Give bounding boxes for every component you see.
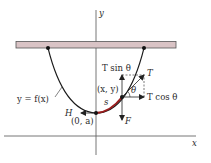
- horizontal-force-label: H: [64, 108, 73, 118]
- tension-vertical-label: T sin θ: [102, 63, 131, 73]
- point-xy-label: (x, y): [97, 84, 119, 94]
- tension-label: T: [147, 68, 154, 78]
- curve-label-leader: [55, 87, 62, 97]
- lowest-point-label: (0, a): [71, 116, 94, 126]
- diagram-canvas: y x y = f(x) (0, a) (x, y) s T T sin θ T…: [0, 0, 211, 163]
- left-anchor-point: [46, 46, 50, 50]
- angle-label: θ: [131, 85, 136, 95]
- arc-length-segment: [96, 97, 122, 113]
- right-anchor-point: [142, 46, 146, 50]
- tension-horizontal-label: T cos θ: [147, 92, 177, 102]
- x-axis-label: x: [192, 138, 197, 148]
- angle-arc: [128, 91, 130, 97]
- cable-diagram: y x y = f(x) (0, a) (x, y) s T T sin θ T…: [0, 0, 211, 163]
- curve-label: y = f(x): [16, 94, 49, 104]
- ceiling-bar: [16, 42, 176, 49]
- weight-force-label: F: [124, 116, 132, 126]
- y-axis-label: y: [98, 8, 104, 18]
- arc-length-label: s: [104, 97, 109, 107]
